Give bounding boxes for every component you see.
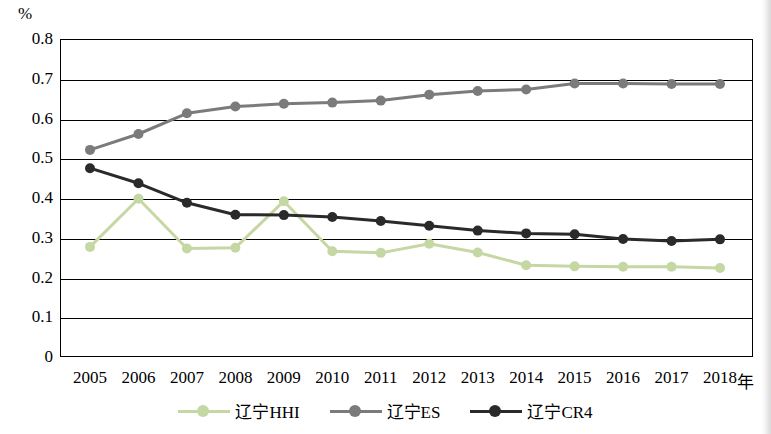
- legend-marker: [489, 405, 501, 417]
- x-axis-tick-label: 2011: [356, 368, 406, 388]
- legend-swatch: [178, 404, 230, 418]
- x-axis-tick-label: 2015: [550, 368, 600, 388]
- data-point: [279, 196, 289, 206]
- y-axis-tick-label: 0.7: [5, 69, 53, 89]
- x-axis-tick-label: 2005: [65, 368, 115, 388]
- data-point: [667, 236, 677, 246]
- data-point: [618, 234, 628, 244]
- data-point: [667, 79, 677, 89]
- data-point: [424, 90, 434, 100]
- data-point: [327, 246, 337, 256]
- chart-container: % 00.10.20.30.40.50.60.70.8 200520062007…: [0, 0, 771, 434]
- data-point: [376, 248, 386, 258]
- x-axis-tick-label: 2012: [404, 368, 454, 388]
- legend-marker: [197, 405, 209, 417]
- chart-lines: [60, 39, 753, 357]
- x-axis-tick-label: 2016: [598, 368, 648, 388]
- x-axis-tick-label: 2013: [453, 368, 503, 388]
- data-point: [473, 226, 483, 236]
- data-point: [230, 102, 240, 112]
- y-axis-tick-label: 0.1: [5, 307, 53, 327]
- data-point: [424, 239, 434, 249]
- y-axis-tick-label: 0.8: [5, 29, 53, 49]
- data-point: [182, 198, 192, 208]
- data-point: [279, 99, 289, 109]
- page-edge-shadow: [762, 0, 771, 434]
- data-point: [570, 229, 580, 239]
- data-point: [133, 178, 143, 188]
- data-point: [715, 263, 725, 273]
- chart-legend: 辽宁HHI辽宁ES辽宁CR4: [0, 398, 771, 423]
- x-axis-tick-label: 2006: [113, 368, 163, 388]
- legend-item[interactable]: 辽宁CR4: [470, 398, 592, 423]
- data-point: [133, 194, 143, 204]
- legend-label: 辽宁HHI: [235, 398, 299, 423]
- data-point: [570, 261, 580, 271]
- data-point: [376, 216, 386, 226]
- y-axis-unit-label: %: [18, 4, 32, 24]
- data-point: [667, 262, 677, 272]
- x-axis-tick-label: 2017: [647, 368, 697, 388]
- legend-label: 辽宁ES: [387, 398, 441, 423]
- y-axis-tick-label: 0.6: [5, 109, 53, 129]
- y-axis-tick-label: 0.4: [5, 188, 53, 208]
- x-axis-unit-label: 年: [737, 368, 754, 393]
- legend-item[interactable]: 辽宁HHI: [178, 398, 299, 423]
- legend-label: 辽宁CR4: [527, 398, 592, 423]
- y-axis-tick-label: 0.3: [5, 228, 53, 248]
- data-point: [521, 84, 531, 94]
- data-point: [715, 234, 725, 244]
- legend-marker: [349, 405, 361, 417]
- data-point: [279, 210, 289, 220]
- data-point: [424, 221, 434, 231]
- x-axis-tick-label: 2009: [259, 368, 309, 388]
- x-axis-tick-label: 2008: [210, 368, 260, 388]
- data-point: [85, 145, 95, 155]
- data-point: [182, 243, 192, 253]
- data-point: [473, 247, 483, 257]
- data-point: [521, 260, 531, 270]
- y-axis-tick-label: 0: [5, 347, 53, 367]
- data-point: [376, 96, 386, 106]
- legend-item[interactable]: 辽宁ES: [330, 398, 441, 423]
- data-point: [473, 86, 483, 96]
- x-axis-tick-label: 2010: [307, 368, 357, 388]
- data-point: [618, 262, 628, 272]
- data-point: [327, 98, 337, 108]
- data-point: [230, 210, 240, 220]
- legend-swatch: [470, 404, 522, 418]
- y-axis-tick-label: 0.2: [5, 268, 53, 288]
- data-point: [230, 243, 240, 253]
- data-point: [182, 108, 192, 118]
- y-axis-tick-label: 0.5: [5, 148, 53, 168]
- x-axis-tick-label: 2014: [501, 368, 551, 388]
- data-point: [715, 79, 725, 89]
- data-point: [85, 242, 95, 252]
- data-point: [570, 79, 580, 89]
- data-point: [521, 228, 531, 238]
- x-axis-tick-label: 2007: [162, 368, 212, 388]
- legend-swatch: [330, 404, 382, 418]
- series-line: [90, 199, 720, 268]
- data-point: [327, 212, 337, 222]
- data-point: [133, 129, 143, 139]
- data-point: [85, 163, 95, 173]
- data-point: [618, 79, 628, 89]
